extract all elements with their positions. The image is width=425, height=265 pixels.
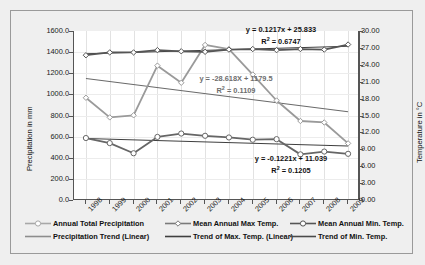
y-axis-right-tick-mark — [359, 65, 363, 66]
y-axis-left-tick-mark — [69, 31, 73, 32]
annotation-max-temp-equation: y = 0.1217x + 25.833 — [216, 25, 346, 34]
y-axis-right-tick-mark — [359, 149, 363, 150]
legend-label: Trend of Min. Temp. — [318, 232, 387, 241]
legend-item[interactable]: Mean Annual Max Temp. — [165, 219, 278, 228]
legend-marker-open-circle-icon — [25, 219, 51, 228]
legend-marker-line-icon — [25, 232, 51, 241]
y-axis-left-tick-label: 1600.0 — [23, 27, 69, 35]
y-axis-left-tick-mark — [69, 73, 73, 74]
legend-marker-open-diamond-icon — [165, 219, 191, 228]
series-marker — [155, 134, 160, 139]
y-axis-right-tick-label: 15.00 — [361, 112, 401, 120]
legend-item[interactable]: Precipitation Trend (Linear) — [25, 232, 149, 241]
series-marker — [131, 151, 136, 156]
x-axis-tick-mark — [204, 200, 205, 204]
legend-item[interactable]: Trend of Max. Temp. (Linear) — [165, 232, 293, 241]
y-axis-left-tick-mark — [69, 200, 73, 201]
x-axis-tick-mark — [85, 200, 86, 204]
series-marker — [107, 141, 112, 146]
y-axis-right-tick-label: 6.00 — [361, 162, 401, 170]
series-line — [86, 134, 348, 155]
y-axis-left-tick-label: 1000.0 — [23, 90, 69, 98]
series-marker — [322, 47, 327, 52]
series-marker — [107, 50, 112, 55]
annotation-min-temp-r2: R2 = 0.1205 — [226, 164, 356, 175]
y-axis-right-tick-label: 24.00 — [361, 61, 401, 69]
y-axis-right-tick-mark — [359, 183, 363, 184]
chart-legend: Annual Total PrecipitationMean Annual Ma… — [25, 219, 405, 247]
series-marker — [202, 133, 207, 138]
y-axis-left-tick-mark — [69, 179, 73, 180]
trendline — [86, 139, 348, 147]
x-axis-tick-mark — [180, 200, 181, 204]
y-axis-right-tick-mark — [359, 48, 363, 49]
y-axis-left-tick-label: 0.0 — [23, 196, 69, 204]
r2-value: = 0.1205 — [280, 166, 311, 175]
y-axis-left-tick-mark — [69, 116, 73, 117]
y-axis-right-tick-label: 9.00 — [361, 145, 401, 153]
y-axis-right-ticks: 0.003.006.009.0012.0015.0018.0021.0024.0… — [361, 31, 421, 200]
legend-item[interactable]: Trend of Min. Temp. — [290, 232, 387, 241]
r2-value: = 0.1109 — [225, 86, 256, 95]
series-marker — [250, 46, 255, 51]
y-axis-right-tick-mark — [359, 31, 363, 32]
y-axis-right-tick-label: 0.00 — [361, 196, 401, 204]
y-axis-left-tick-mark — [69, 158, 73, 159]
legend-label: Mean Annual Max Temp. — [193, 219, 278, 228]
y-axis-right-tick-mark — [359, 166, 363, 167]
x-axis-tick-mark — [323, 200, 324, 204]
x-axis-tick-mark — [299, 200, 300, 204]
y-axis-right-tick-label: 27.00 — [361, 44, 401, 52]
series-marker — [226, 135, 231, 140]
chart-frame: 0.0200.0400.0600.0800.01000.01200.01400.… — [10, 10, 413, 254]
annotation-max-temp-r2: R2 = 0.6747 — [216, 35, 346, 46]
annotation-min-temp-equation: y = -0.1221x + 11.039 — [226, 154, 356, 163]
series-marker — [179, 49, 184, 54]
legend-label: Trend of Max. Temp. (Linear) — [193, 232, 293, 241]
series-marker — [83, 135, 88, 140]
y-axis-left-tick-label: 1200.0 — [23, 69, 69, 77]
legend-marker-line-icon — [165, 232, 191, 241]
y-axis-right-tick-label: 18.00 — [361, 95, 401, 103]
chart-screenshot: 0.0200.0400.0600.0800.01000.01200.01400.… — [0, 0, 425, 265]
series-marker — [131, 50, 136, 55]
y-axis-left-tick-label: 200.0 — [23, 175, 69, 183]
x-axis-tick-mark — [133, 200, 134, 204]
x-axis-tick-mark — [228, 200, 229, 204]
y-axis-right-tick-mark — [359, 99, 363, 100]
y-axis-left-tick-mark — [69, 94, 73, 95]
annotation-precip-r2: R2 = 0.1109 — [171, 84, 301, 95]
legend-label: Mean Annual Min. Temp. — [318, 219, 404, 228]
y-axis-right-tick-label: 21.00 — [361, 78, 401, 86]
r2-value: = 0.6747 — [270, 37, 301, 46]
y-axis-right-tick-mark — [359, 132, 363, 133]
y-axis-right-tick-mark — [359, 82, 363, 83]
y-axis-right-tick-label: 12.00 — [361, 128, 401, 136]
legend-label: Precipitation Trend (Linear) — [53, 232, 149, 241]
series-marker — [250, 137, 255, 142]
legend-item[interactable]: Mean Annual Min. Temp. — [290, 219, 404, 228]
legend-marker-open-circle-icon — [290, 219, 316, 228]
y-axis-left-title: Precipitation in mm — [25, 106, 34, 171]
x-axis-tick-mark — [276, 200, 277, 204]
y-axis-right-tick-label: 3.00 — [361, 179, 401, 187]
y-axis-right-title: Temperature in °C — [415, 102, 424, 163]
x-axis-tick-mark — [347, 200, 348, 204]
legend-marker-line-icon — [290, 232, 316, 241]
y-axis-right-tick-label: 30.00 — [361, 27, 401, 35]
series-marker — [179, 131, 184, 136]
x-axis-tick-mark — [252, 200, 253, 204]
x-axis-tick-mark — [156, 200, 157, 204]
series-marker — [274, 137, 279, 142]
annotation-precip-equation: y = -28.618X + 1179.5 — [171, 74, 301, 83]
y-axis-left-tick-label: 1400.0 — [23, 48, 69, 56]
x-axis-tick-mark — [109, 200, 110, 204]
y-axis-left-tick-mark — [69, 52, 73, 53]
legend-label: Annual Total Precipitation — [53, 219, 144, 228]
y-axis-right-tick-mark — [359, 200, 363, 201]
y-axis-left-tick-mark — [69, 137, 73, 138]
y-axis-right-tick-mark — [359, 116, 363, 117]
legend-item[interactable]: Annual Total Precipitation — [25, 219, 144, 228]
